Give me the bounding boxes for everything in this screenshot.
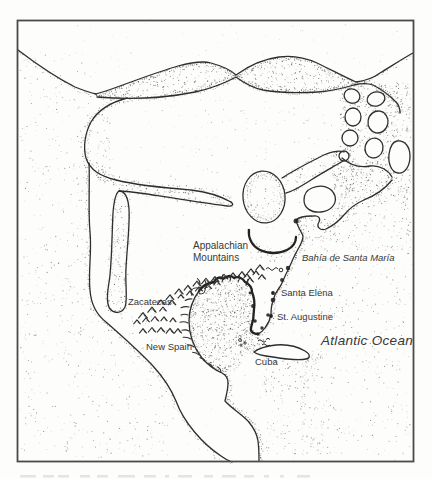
label-new-spain: New Spain (146, 341, 192, 352)
marker-santa-elena (271, 291, 275, 295)
marker-st-augustine (269, 314, 273, 318)
label-bahia-de-santa-maria: Bahía de Santa María (302, 252, 394, 263)
label-santa-elena: Santa Elena (281, 287, 333, 298)
label-cuba: Cuba (255, 356, 278, 367)
label-appalachian-line2: Mountains (193, 252, 239, 263)
islands-layer (240, 87, 410, 225)
historical-map-figure: Appalachian Mountains Bahía de Santa Mar… (0, 0, 432, 479)
label-appalachian-line1: Appalachian (193, 240, 248, 251)
label-st-augustine: St. Augustine (277, 311, 333, 322)
label-zacatecas: Zacatecas (128, 296, 172, 307)
map-canvas: Appalachian Mountains Bahía de Santa Mar… (0, 0, 432, 479)
label-atlantic-ocean: Atlantic Ocean (320, 333, 413, 348)
cutoff-caption-fragment (20, 475, 310, 478)
